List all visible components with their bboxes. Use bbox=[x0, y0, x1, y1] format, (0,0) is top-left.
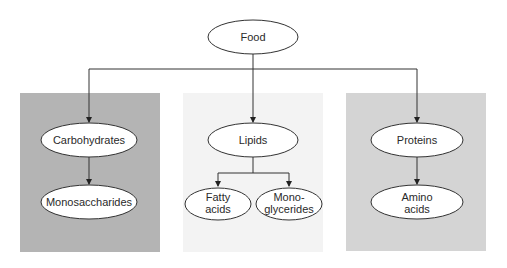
fatty-acids-label-line2: acids bbox=[205, 203, 231, 215]
proteins-label: Proteins bbox=[397, 134, 437, 146]
amino-acids-label-line1: Amino bbox=[401, 191, 432, 203]
monoglycerides-label-line2: glycerides bbox=[264, 203, 314, 215]
carbohydrates-label: Carbohydrates bbox=[53, 134, 125, 146]
amino-acids-label-line2: acids bbox=[404, 203, 430, 215]
lipids-label: Lipids bbox=[239, 134, 268, 146]
fatty-acids-label-line1: Fatty bbox=[206, 191, 230, 203]
monosaccharides-label: Monosaccharides bbox=[46, 196, 132, 208]
monoglycerides-label-line1: Mono- bbox=[273, 191, 304, 203]
food-label: Food bbox=[240, 31, 265, 43]
